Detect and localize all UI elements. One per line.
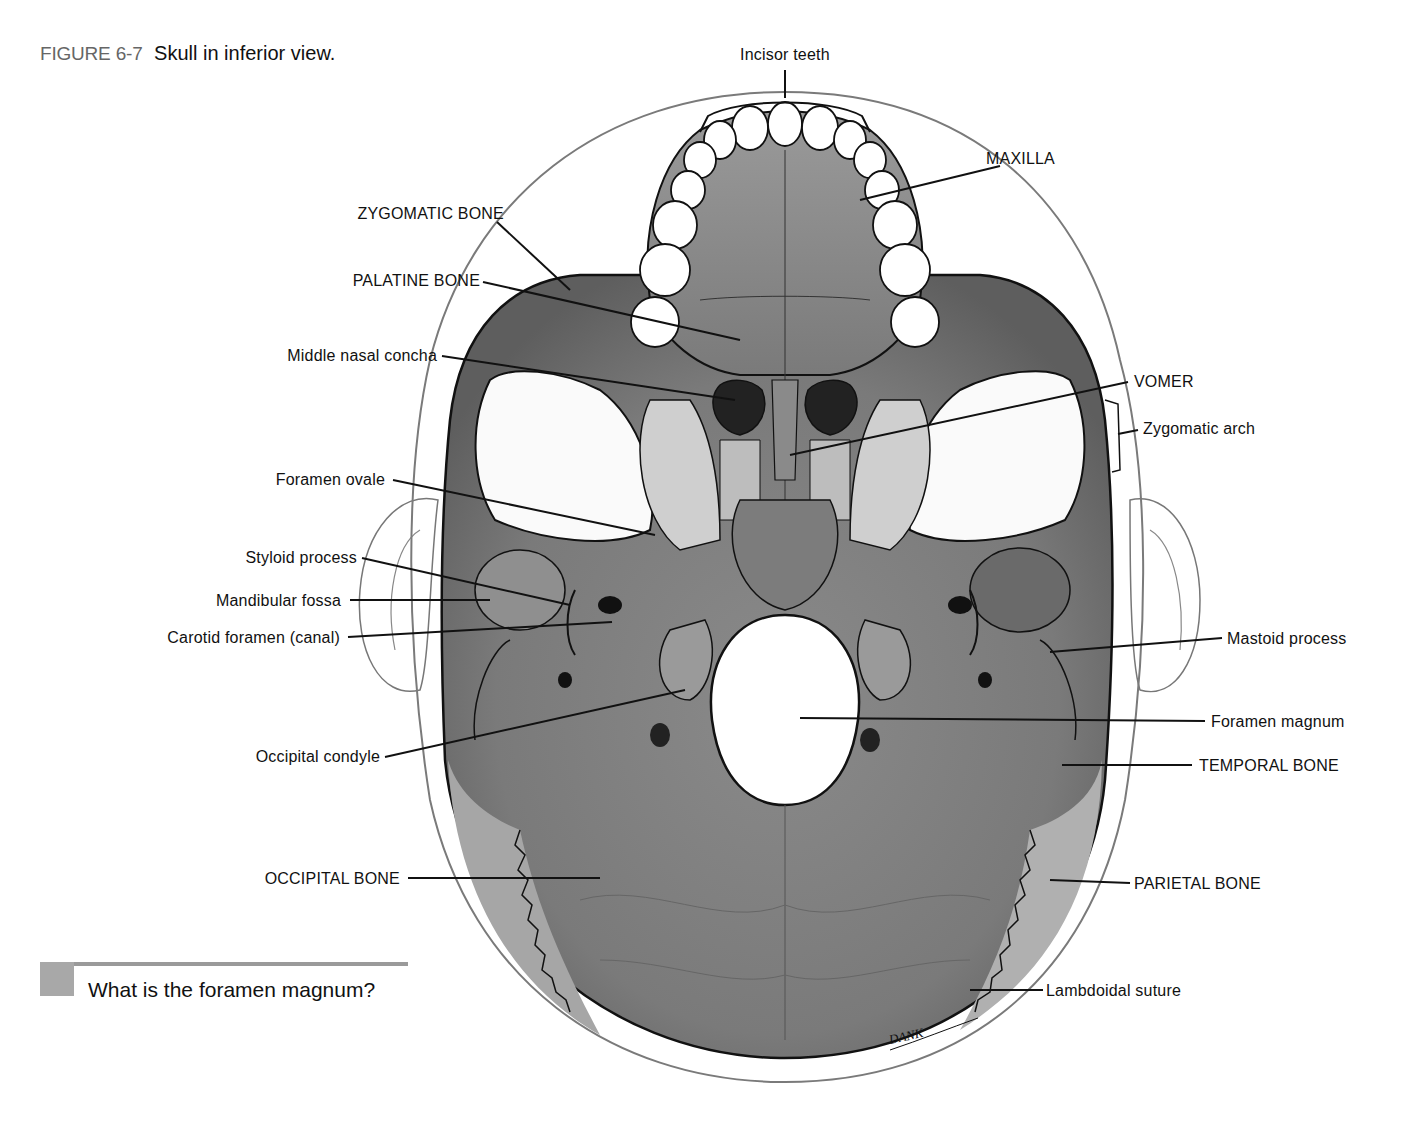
left-ear <box>359 498 438 691</box>
label-vomer: VOMER <box>1134 373 1194 391</box>
label-mastoid-process: Mastoid process <box>1227 630 1347 648</box>
label-foramen-magnum: Foramen magnum <box>1211 713 1345 731</box>
label-foramen-ovale: Foramen ovale <box>276 471 385 489</box>
vomer-shape <box>772 380 798 480</box>
label-palatine-bone: PALATINE BONE <box>353 272 480 290</box>
review-question: What is the foramen magnum? <box>88 978 375 1002</box>
foramen-magnum-shape <box>711 615 859 805</box>
label-incisor-teeth: Incisor teeth <box>740 46 830 64</box>
label-lambdoidal-suture: Lambdoidal suture <box>1046 982 1181 1000</box>
skull-inferior-diagram: DANK <box>0 0 1402 1124</box>
label-mandibular-fossa: Mandibular fossa <box>216 592 341 610</box>
label-zygomatic-arch: Zygomatic arch <box>1143 420 1255 438</box>
question-divider <box>40 962 408 966</box>
label-zygomatic-bone: ZYGOMATIC BONE <box>357 205 504 223</box>
label-maxilla: MAXILLA <box>986 150 1055 168</box>
label-parietal-bone: PARIETAL BONE <box>1134 875 1261 893</box>
label-occipital-condyle: Occipital condyle <box>256 748 380 766</box>
label-occipital-bone: OCCIPITAL BONE <box>265 870 400 888</box>
label-styloid-process: Styloid process <box>246 549 358 567</box>
question-marker <box>40 962 74 996</box>
label-middle-nasal-concha: Middle nasal concha <box>287 347 437 365</box>
label-temporal-bone: TEMPORAL BONE <box>1199 757 1339 775</box>
label-carotid-foramen: Carotid foramen (canal) <box>167 629 340 647</box>
